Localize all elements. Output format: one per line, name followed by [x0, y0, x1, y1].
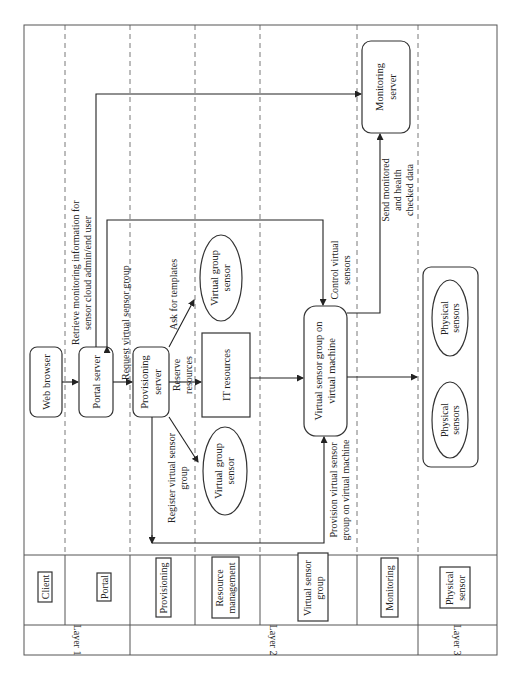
svg-text:sensors: sensors: [450, 405, 461, 435]
svg-text:management: management: [226, 562, 237, 613]
svg-text:Provisioning: Provisioning: [158, 562, 169, 613]
lane-label-monitoring: Monitoring: [381, 558, 398, 617]
edge-label-control-1: Control virtual: [329, 240, 340, 299]
svg-text:Monitoring: Monitoring: [384, 565, 395, 611]
svg-text:Virtual sensor: Virtual sensor: [302, 559, 313, 615]
svg-text:sensor: sensor: [456, 575, 467, 601]
lane-label-resource-management: Resource management: [212, 557, 239, 618]
edge-label-request: Request virtual sensor group: [120, 265, 131, 380]
lane-label-client: Client: [38, 572, 52, 602]
edge-label-send-3: checked data: [404, 163, 415, 215]
node-physical-sensors-2: Physical sensors: [432, 382, 468, 458]
svg-text:Resource: Resource: [214, 569, 225, 607]
edge-vsg-to-monitoring: [347, 134, 380, 313]
svg-text:server: server: [152, 369, 163, 395]
svg-text:group: group: [314, 576, 325, 599]
edge-label-reserve-1: Reserve: [171, 358, 182, 391]
edge-label-send-1: Send monitored: [380, 158, 391, 222]
edge-label-register-2: group: [178, 466, 189, 489]
edge-label-register-1: Register virtual sensor: [166, 432, 177, 523]
svg-text:Physical: Physical: [444, 571, 455, 605]
svg-text:server: server: [387, 74, 398, 100]
svg-text:sensor: sensor: [221, 264, 232, 291]
lane-label-portal: Portal: [97, 573, 111, 601]
svg-text:Portal: Portal: [99, 575, 110, 599]
svg-text:Portal server: Portal server: [91, 355, 102, 409]
lane-label-provisioning: Provisioning: [156, 558, 171, 617]
node-virtual-group-sensor-top: Virtual group sensor: [200, 235, 242, 321]
layer-label-3: Layer 3: [452, 625, 463, 656]
svg-text:Virtual sensor group on: Virtual sensor group on: [313, 321, 324, 421]
svg-text:Physical: Physical: [439, 403, 450, 437]
svg-text:Client: Client: [40, 575, 51, 600]
lane-label-physical-sensor: Physical sensor: [440, 567, 470, 608]
lane-label-virtual-sensor-group: Virtual sensor group: [298, 553, 328, 621]
node-physical-sensors-group: Physical sensors Physical sensors: [423, 267, 478, 467]
node-it-resources: IT resources: [202, 333, 250, 417]
node-virtual-sensor-group-vm: Virtual sensor group on virtual machine: [304, 306, 347, 436]
edge-label-control-2: sensors: [341, 255, 352, 285]
svg-text:Physical: Physical: [439, 301, 450, 335]
svg-text:Virtual group: Virtual group: [209, 250, 220, 306]
swimlane-diagram: Client Portal Provisioning Resource mana…: [0, 0, 522, 678]
node-provisioning-server: Provisioning server: [133, 347, 169, 417]
layer-label-1: Layer 1: [72, 625, 83, 656]
svg-text:Provisioning: Provisioning: [139, 354, 150, 408]
edge-label-ask-templates: Ask for templates: [168, 259, 179, 330]
svg-text:sensor: sensor: [225, 457, 236, 484]
svg-text:virtual machine: virtual machine: [326, 338, 337, 404]
node-monitoring-server: Monitoring server: [362, 41, 410, 133]
node-portal-server: Portal server: [79, 347, 113, 417]
svg-text:IT resources: IT resources: [221, 349, 232, 401]
edge-label-retrieve-2: sensor cloud admin/end user: [82, 215, 93, 330]
edge-label-provision-2: group on virtual machine: [340, 439, 351, 540]
svg-text:Web browser: Web browser: [41, 354, 52, 410]
edge-label-reserve-2: resources: [183, 356, 194, 394]
svg-text:sensors: sensors: [450, 303, 461, 333]
svg-text:Monitoring: Monitoring: [374, 62, 385, 111]
edge-label-provision-1: Provision virtual sensor: [328, 442, 339, 538]
edge-label-send-2: and health: [392, 169, 403, 210]
svg-text:Virtual group: Virtual group: [213, 443, 224, 499]
layer-label-2: Layer 2: [268, 625, 279, 656]
node-physical-sensors-1: Physical sensors: [432, 280, 468, 356]
node-web-browser: Web browser: [30, 347, 62, 417]
node-virtual-group-sensor-bottom: Virtual group sensor: [203, 427, 247, 515]
edge-label-retrieve-1: Retrieve monitoring information for: [70, 200, 81, 345]
